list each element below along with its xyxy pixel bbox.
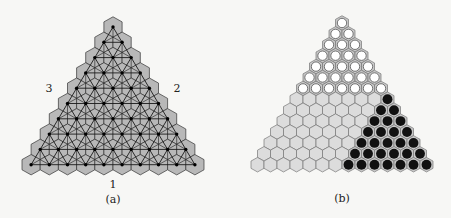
caption-a: (a)	[105, 193, 120, 206]
side-label-2: 2	[174, 82, 181, 95]
panel-a	[22, 17, 204, 175]
side-label-3: 3	[46, 82, 53, 95]
side-label-1: 1	[110, 178, 117, 191]
panel-b	[251, 16, 433, 172]
caption-b: (b)	[334, 192, 350, 205]
figure-canvas	[0, 0, 451, 218]
